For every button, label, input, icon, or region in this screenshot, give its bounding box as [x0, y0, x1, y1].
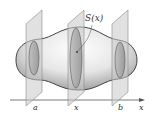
section-x	[70, 28, 82, 88]
section-a	[29, 41, 39, 75]
plane-a	[26, 10, 42, 106]
section-b	[115, 42, 125, 78]
plane-b	[112, 10, 128, 106]
label-b: b	[118, 103, 123, 112]
cross-section-diagram: S(x) a x b x	[0, 0, 155, 115]
label-x-axis: x	[139, 103, 144, 112]
label-area-function: S(x)	[85, 13, 104, 23]
label-x-point: x	[74, 103, 79, 112]
label-a: a	[33, 103, 38, 112]
